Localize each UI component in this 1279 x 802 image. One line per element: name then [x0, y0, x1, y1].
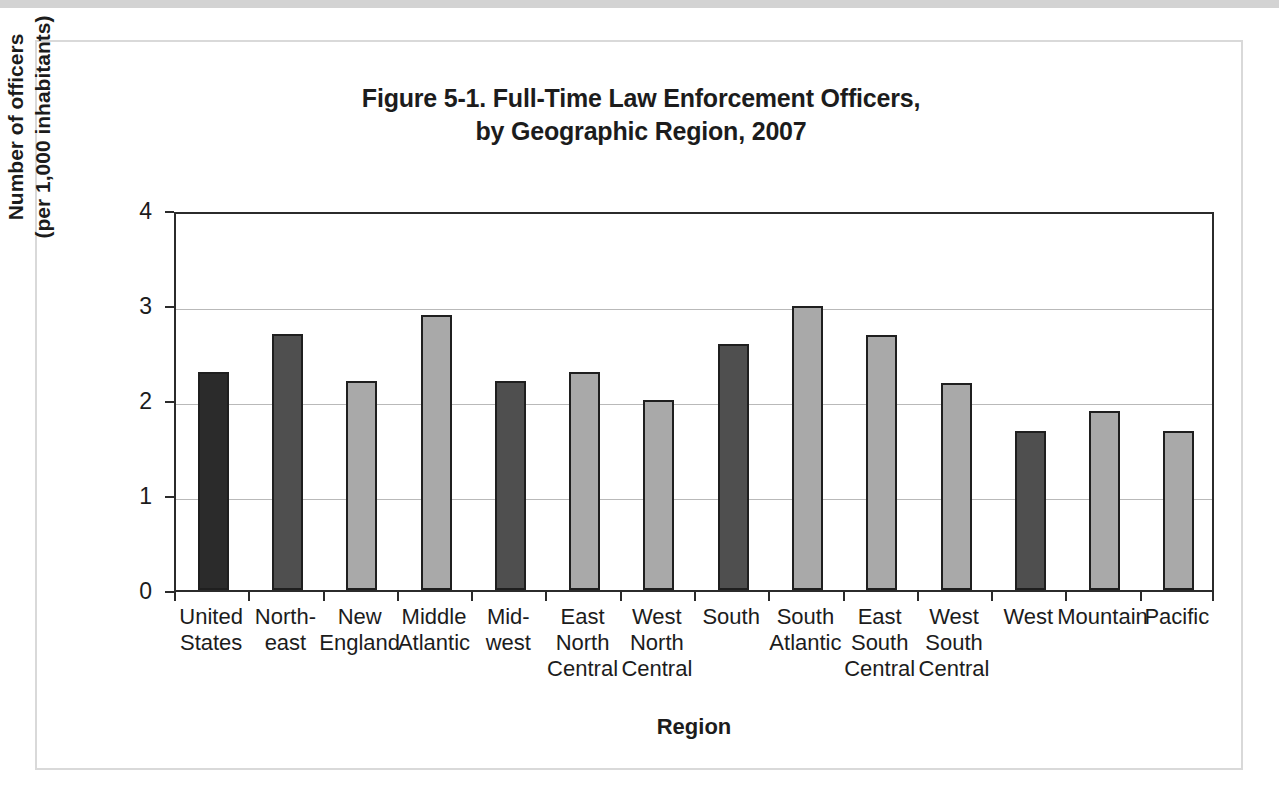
bar-united-states [198, 372, 229, 591]
bar-mountain [1089, 411, 1120, 590]
x-tick-mark-6 [620, 592, 622, 601]
x-tick-mark-2 [323, 592, 325, 601]
x-tick-label-line: Pacific [1121, 604, 1233, 630]
x-tick-label-line: North [601, 630, 713, 656]
plot-area [174, 212, 1214, 592]
x-tick-label-pacific: Pacific [1121, 604, 1233, 630]
x-tick-mark-end [1212, 592, 1214, 601]
y-tick-mark-2 [165, 401, 174, 403]
x-tick-mark-11 [991, 592, 993, 601]
x-tick-mark-0 [174, 592, 176, 601]
x-tick-mark-3 [397, 592, 399, 601]
y-tick-label-3: 3 [112, 295, 152, 318]
y-tick-label-0: 0 [112, 580, 152, 603]
x-tick-label-line: South [898, 630, 1010, 656]
chart-title-line-1: Figure 5-1. Full-Time Law Enforcement Of… [37, 82, 1245, 115]
gridline-3 [176, 309, 1212, 310]
bar-south-atlantic [792, 306, 823, 590]
bar-middle-atlantic [421, 315, 452, 591]
y-tick-mark-3 [165, 306, 174, 308]
x-tick-mark-4 [471, 592, 473, 601]
y-tick-mark-0 [165, 591, 174, 593]
bar-mid-west [495, 381, 526, 590]
y-tick-label-1: 1 [112, 485, 152, 508]
y-tick-label-2: 2 [112, 390, 152, 413]
chart-title-line-2: by Geographic Region, 2007 [37, 115, 1245, 148]
figure-frame: Figure 5-1. Full-Time Law Enforcement Of… [35, 40, 1243, 770]
bar-south [718, 344, 749, 590]
x-tick-mark-10 [917, 592, 919, 601]
y-tick-label-4: 4 [112, 200, 152, 223]
bar-east-south-central [866, 335, 897, 590]
x-tick-mark-9 [843, 592, 845, 601]
x-tick-mark-1 [248, 592, 250, 601]
top-gray-band [0, 0, 1279, 8]
x-tick-mark-13 [1140, 592, 1142, 601]
y-axis-title: Number of officers (per 1,000 inhabitant… [2, 0, 56, 342]
bar-west [1015, 431, 1046, 590]
x-tick-mark-12 [1065, 592, 1067, 601]
x-tick-mark-8 [768, 592, 770, 601]
bar-new-england [346, 381, 377, 590]
gridline-2 [176, 404, 1212, 405]
x-tick-mark-7 [694, 592, 696, 601]
bar-west-south-central [941, 383, 972, 590]
bar-east-north-central [569, 372, 600, 591]
y-tick-mark-1 [165, 496, 174, 498]
x-axis-title: Region [174, 714, 1214, 740]
bar-north-east [272, 334, 303, 591]
y-axis-title-line-2: (per 1,000 inhabitants) [29, 0, 56, 342]
bar-pacific [1163, 431, 1194, 590]
bar-west-north-central [643, 400, 674, 590]
gridline-1 [176, 499, 1212, 500]
y-tick-mark-4 [165, 211, 174, 213]
x-tick-label-line: Central [601, 656, 713, 682]
x-tick-mark-5 [545, 592, 547, 601]
x-tick-label-line: Central [898, 656, 1010, 682]
chart-title: Figure 5-1. Full-Time Law Enforcement Of… [37, 82, 1245, 148]
y-axis-title-line-1: Number of officers [2, 0, 29, 342]
